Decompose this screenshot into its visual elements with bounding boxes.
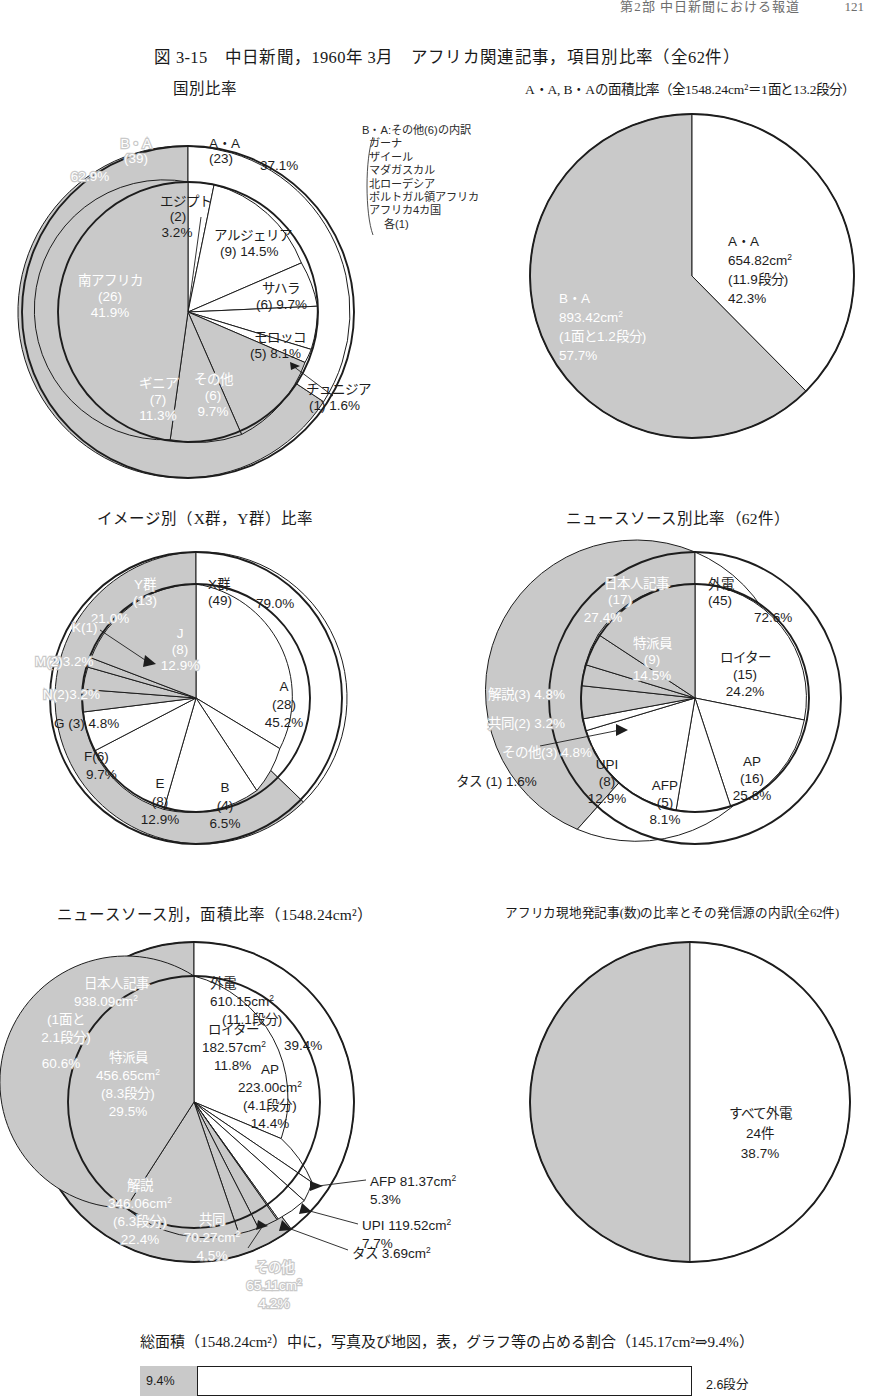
photo-share-bar: 9.4% [140, 1366, 692, 1396]
leader-upi-area [306, 1210, 358, 1224]
svg-text:アルジェリア: アルジェリア [214, 228, 292, 243]
svg-text:(5) 8.1%: (5) 8.1% [250, 346, 301, 361]
svg-text:(1) 1.6%: (1) 1.6% [309, 398, 360, 413]
svg-text:4.5%: 4.5% [197, 1248, 228, 1263]
svg-text:5.3%: 5.3% [370, 1192, 401, 1207]
svg-text:14.5%: 14.5% [633, 668, 671, 683]
svg-text:エジプト: エジプト [160, 194, 212, 209]
chart-africa-local-origin: すべて外電 24件 38.7% [498, 928, 888, 1308]
svg-text:B・A: B・A [559, 291, 590, 306]
svg-text:(1面と1.2段分): (1面と1.2段分) [559, 329, 646, 344]
svg-text:(39): (39) [124, 151, 148, 166]
chart-news-source-ratio: 外電 (45) 72.6% 日本人記事 (17) 27.4% 特派員 (9) 1… [440, 534, 880, 854]
svg-text:A・A: A・A [209, 136, 240, 151]
label-inner-other-area: その他 65.11cm2 4.2% [246, 1260, 302, 1311]
svg-text:(8): (8) [152, 794, 169, 809]
svg-text:ギニア: ギニア [139, 376, 178, 391]
svg-text:(11.9段分): (11.9段分) [728, 272, 788, 287]
svg-text:6.5%: 6.5% [210, 816, 241, 831]
svg-text:41.9%: 41.9% [91, 305, 129, 320]
svg-text:11.8%: 11.8% [214, 1058, 251, 1073]
svg-text:(23): (23) [209, 151, 233, 166]
svg-text:182.57cm2: 182.57cm2 [202, 1039, 266, 1055]
svg-text:日本人記事: 日本人記事 [84, 976, 149, 991]
svg-text:893.42cm2: 893.42cm2 [559, 309, 623, 325]
svg-text:ロイター: ロイター [208, 1022, 259, 1037]
svg-text:Y群: Y群 [134, 577, 157, 592]
label-inner-n: N(2)3.2% [43, 687, 100, 702]
svg-text:(4.1段分): (4.1段分) [243, 1098, 297, 1113]
svg-text:3.2%: 3.2% [162, 225, 193, 240]
svg-text:AP: AP [743, 754, 761, 769]
svg-text:AFP: AFP [652, 778, 678, 793]
svg-text:57.7%: 57.7% [559, 348, 597, 363]
svg-text:特派員: 特派員 [633, 636, 672, 651]
svg-text:J: J [177, 626, 184, 641]
label-inner-kaisetsu: 解説(3) 4.8% [488, 687, 565, 702]
bar-right-label: 2.6段分 [706, 1374, 749, 1393]
svg-text:(1面と: (1面と [47, 1012, 85, 1027]
label-inner-m: M(2)3.2% [35, 654, 94, 669]
svg-text:(16): (16) [740, 771, 764, 786]
page-number: 121 [845, 0, 865, 15]
svg-text:79.0%: 79.0% [256, 596, 294, 611]
running-header: 第2部 中日新聞における報道121 [0, 0, 894, 15]
bar-value-label: 9.4% [146, 1374, 175, 1388]
svg-text:24.2%: 24.2% [726, 684, 764, 699]
svg-text:60.6%: 60.6% [42, 1056, 80, 1071]
label-inner-sahara: サハラ (6) 9.7% [256, 281, 307, 312]
svg-text:(6.3段分): (6.3段分) [113, 1214, 167, 1229]
panel-title-africa-local: アフリカ現地発記事(数)の比率とその発信源の内訳(全62件) [460, 902, 884, 921]
svg-text:610.15cm2: 610.15cm2 [210, 993, 274, 1009]
svg-text:(9) 14.5%: (9) 14.5% [220, 244, 279, 259]
running-header-text: 第2部 中日新聞における報道 [620, 0, 800, 14]
svg-text:456.65cm2: 456.65cm2 [96, 1067, 160, 1083]
svg-text:29.5%: 29.5% [109, 1104, 147, 1119]
svg-text:日本人記事: 日本人記事 [604, 576, 669, 591]
chart-area-ratio-aa-ba: A・A 654.82cm2 (11.9段分) 42.3% B・A 893.42c… [496, 106, 886, 446]
svg-text:UPI: UPI [596, 757, 619, 772]
svg-text:(6): (6) [205, 388, 222, 403]
label-inner-other: その他(3) 4.8% [502, 745, 592, 760]
label-inner-tunisia: チュニジア (1) 1.6% [306, 382, 371, 413]
svg-text:解説: 解説 [127, 1178, 154, 1193]
svg-text:12.9%: 12.9% [161, 658, 199, 673]
panel-title-news-source-area: ニュースソース別，面積比率（1548.24cm²） [20, 902, 410, 924]
svg-text:9.7%: 9.7% [198, 404, 229, 419]
svg-text:(5): (5) [657, 795, 674, 810]
panel-title-image-group: イメージ別（X群，Y群）比率 [40, 506, 370, 528]
figure-page: 第2部 中日新聞における報道121 図 3-15 中日新聞，1960年 3月 ア… [0, 0, 894, 1399]
svg-text:2.1段分): 2.1段分) [41, 1030, 90, 1045]
svg-text:654.82cm2: 654.82cm2 [728, 252, 792, 268]
note-ba-other-breakdown: B・A:その他(6)の内訳 ガーナ ザイール マダガスカル 北ローデシア ポルト… [362, 124, 479, 231]
label-inner-g: G (3) 4.8% [54, 716, 119, 731]
svg-text:(6) 9.7%: (6) 9.7% [256, 297, 307, 312]
svg-text:12.9%: 12.9% [588, 791, 626, 806]
bar-fill: 9.4% [140, 1366, 198, 1396]
svg-text:(8): (8) [172, 642, 189, 657]
svg-text:特派員: 特派員 [109, 1050, 148, 1065]
svg-text:72.6%: 72.6% [754, 610, 792, 625]
local-slice-rest [530, 942, 690, 1262]
note-heading: B・A:その他(6)の内訳 [362, 124, 479, 137]
label-inner-afp-area: AFP 81.37cm2 5.3% [370, 1173, 457, 1207]
note-item: アフリカ4カ国 [362, 204, 479, 217]
label-inner-tass-area: タス 3.69cm2 [352, 1245, 431, 1261]
svg-text:(8): (8) [599, 774, 616, 789]
svg-text:(7): (7) [150, 392, 167, 407]
svg-text:(49): (49) [208, 593, 232, 608]
svg-text:45.2%: 45.2% [265, 715, 303, 730]
svg-text:A・A: A・A [728, 234, 759, 249]
svg-text:4.2%: 4.2% [259, 1296, 290, 1311]
svg-text:UPI 119.52cm2: UPI 119.52cm2 [362, 1217, 452, 1233]
chart-country-ratio: B・A (39) 62.9% A・A (23) 37.1% エジプト (2) 3… [28, 100, 358, 450]
svg-text:すべて外電: すべて外電 [729, 1106, 792, 1121]
panel-title-area-ratio: A・A, B・Aの面積比率（全1548.24cm²＝1面と13.2段分） [486, 78, 894, 98]
svg-text:共同: 共同 [199, 1212, 225, 1227]
svg-text:65.11cm2: 65.11cm2 [246, 1277, 302, 1293]
note-item: ザイール [362, 151, 479, 164]
svg-text:223.00cm2: 223.00cm2 [238, 1079, 302, 1095]
label-inner-kyodo: 共同(2) 3.2% [488, 716, 565, 731]
svg-text:27.4%: 27.4% [584, 610, 622, 625]
svg-text:(2): (2) [170, 209, 187, 224]
